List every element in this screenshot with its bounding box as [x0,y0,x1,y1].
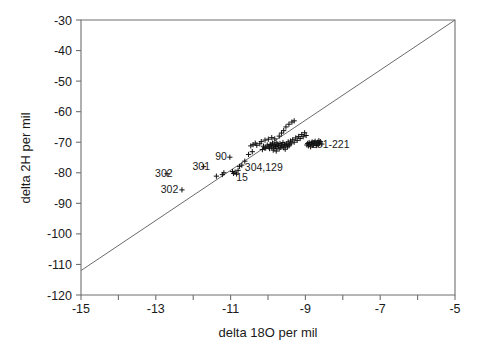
y-tick-label: -50 [54,75,72,89]
y-tick-label: -80 [54,166,72,180]
data-point [179,187,184,192]
point-annotation: 201-221 [311,138,350,150]
y-tick-label: -120 [47,289,72,303]
x-tick-label: -5 [449,302,460,316]
x-tick-label: -13 [147,302,165,316]
x-tick-label: -9 [300,302,311,316]
x-tick-label: -15 [72,302,90,316]
y-tick-label: -70 [54,136,72,150]
y-tick-label: -60 [54,105,72,119]
y-tick-label: -110 [48,258,72,272]
y-tick-label: -90 [54,197,72,211]
scatter-plot-figure: -15-13-11-9-7-5-120-110-100-90-80-70-60-… [0,0,480,345]
axis-ticks [76,20,455,300]
point-annotation: 90 [215,150,227,162]
point-annotation: 302 [155,167,173,179]
point-annotation: 302 [161,183,179,195]
point-annotation: 301 [192,160,210,172]
x-tick-label: -7 [375,302,386,316]
data-point [246,152,251,157]
axes-frame [81,20,455,295]
y-tick-label: -100 [47,227,72,241]
y-tick-label: -40 [54,44,72,58]
data-point [214,174,219,179]
y-tick-label: -30 [54,14,72,28]
x-tick-label: -11 [222,302,239,316]
plot-canvas: -15-13-11-9-7-5-120-110-100-90-80-70-60-… [0,0,480,345]
data-point [250,149,255,154]
data-point [227,155,232,160]
x-axis-title: delta 18O per mil [219,325,318,340]
y-axis-title: delta 2H per mil [18,112,33,203]
point-annotation: 304,129 [245,161,283,173]
